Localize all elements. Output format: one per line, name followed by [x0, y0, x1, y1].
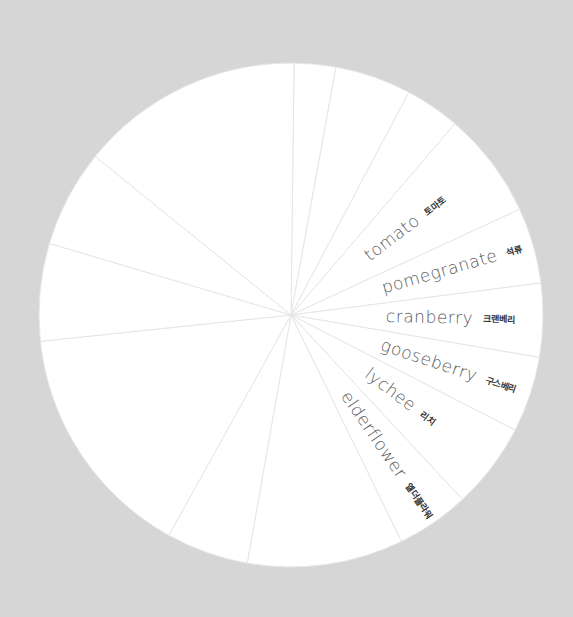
flavor-wheel-chart: tomato 토마토 pomegranate 석류 cranberry 크랜베리…	[0, 0, 573, 617]
label-cranberry-ko: 크랜베리	[483, 313, 515, 325]
pie-chart-svg: tomato 토마토 pomegranate 석류 cranberry 크랜베리…	[0, 0, 573, 617]
label-cranberry-en: cranberry	[386, 306, 474, 328]
